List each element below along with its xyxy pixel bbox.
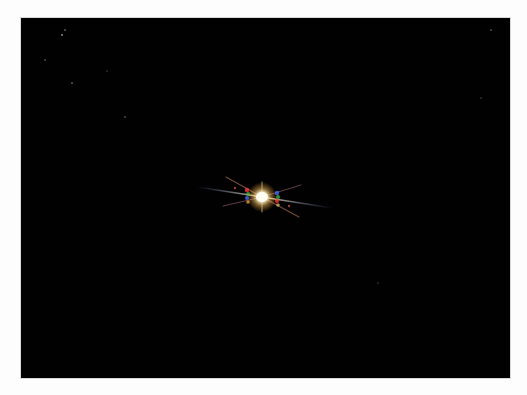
- faint-stars: [44, 29, 491, 283]
- star-core: [256, 192, 268, 202]
- page: [0, 0, 527, 395]
- star-photograph: [21, 18, 510, 378]
- star-field-graphic: [21, 18, 510, 378]
- caption-text: [8, 389, 518, 395]
